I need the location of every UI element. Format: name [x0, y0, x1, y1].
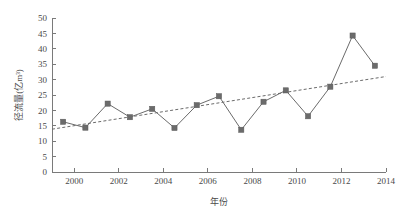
x-tick-label: 2012 [332, 176, 350, 186]
y-tick-label: 45 [38, 29, 48, 39]
chart-canvas: 0510152025303540455020002002200420062008… [0, 0, 398, 213]
data-point-marker [261, 99, 266, 104]
runoff-line-chart: 0510152025303540455020002002200420062008… [0, 0, 398, 213]
data-point-marker [239, 127, 244, 132]
data-point-marker [350, 33, 355, 38]
x-tick-label: 2014 [377, 176, 396, 186]
y-tick-label: 0 [43, 167, 48, 177]
x-tick-label: 2002 [110, 176, 128, 186]
data-point-marker [83, 125, 88, 130]
trend-line [52, 77, 386, 130]
x-tick-label: 2006 [199, 176, 218, 186]
data-point-marker [328, 84, 333, 89]
data-point-marker [150, 106, 155, 111]
data-point-marker [305, 114, 310, 119]
y-tick-label: 5 [43, 152, 48, 162]
y-tick-label: 25 [38, 90, 48, 100]
y-tick-label: 15 [38, 121, 48, 131]
data-point-marker [172, 125, 177, 130]
y-tick-label: 35 [38, 59, 48, 69]
x-tick-label: 2004 [154, 176, 173, 186]
y-tick-label: 20 [38, 106, 48, 116]
data-point-marker [216, 94, 221, 99]
y-axis-title: 径流量(亿m³) [13, 69, 24, 121]
x-tick-label: 2010 [288, 176, 307, 186]
data-point-marker [127, 115, 132, 120]
x-tick-label: 2000 [65, 176, 84, 186]
data-point-marker [372, 63, 377, 68]
series-polyline [63, 36, 375, 130]
data-point-marker [61, 119, 66, 124]
y-tick-label: 10 [38, 136, 48, 146]
y-tick-label: 30 [38, 75, 48, 85]
x-tick-label: 2008 [243, 176, 262, 186]
y-tick-label: 40 [38, 44, 48, 54]
y-tick-label: 50 [38, 13, 48, 23]
data-point-marker [283, 88, 288, 93]
data-point-marker [194, 103, 199, 108]
data-point-marker [105, 101, 110, 106]
x-axis-title: 年份 [210, 196, 228, 207]
